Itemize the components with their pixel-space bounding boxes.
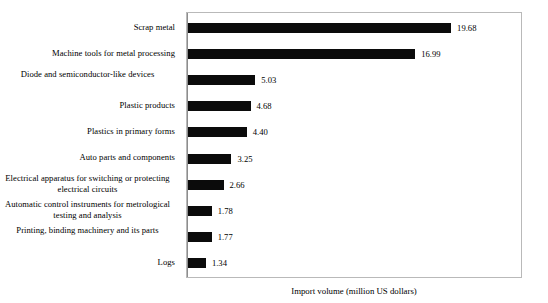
bar: [188, 49, 415, 59]
category-label: Machine tools for metal processing: [0, 48, 175, 58]
bar: [188, 101, 251, 111]
bar-row: 1.78: [188, 206, 233, 216]
bar: [188, 232, 212, 242]
category-axis-labels: Scrap metalMachine tools for metal proce…: [0, 12, 181, 278]
bar: [188, 75, 255, 85]
bar-value-label: 5.03: [261, 75, 276, 85]
bar-value-label: 16.99: [421, 49, 440, 59]
bar: [188, 206, 212, 216]
category-label: Plastic products: [0, 100, 175, 110]
bar-value-label: 3.25: [237, 154, 252, 164]
category-label: Printing, binding machinery and its part…: [0, 225, 175, 235]
bar-value-label: 4.68: [257, 101, 272, 111]
bar-value-label: 2.66: [230, 180, 245, 190]
bar: [188, 23, 451, 33]
bar-chart-figure: Scrap metalMachine tools for metal proce…: [0, 0, 548, 303]
plot-area: 19.6816.995.034.684.403.252.661.781.771.…: [186, 12, 522, 278]
bar-row: 16.99: [188, 49, 441, 59]
bar-row: 3.25: [188, 154, 252, 164]
bar: [188, 127, 247, 137]
bar-row: 1.34: [188, 258, 227, 268]
x-axis-title: Import volume (million US dollars): [186, 286, 522, 296]
category-label: Logs: [0, 257, 175, 267]
category-label: Auto parts and components: [0, 152, 175, 162]
bar-row: 4.40: [188, 127, 268, 137]
bar: [188, 180, 224, 190]
bar-value-label: 19.68: [457, 23, 476, 33]
bar-row: 5.03: [188, 75, 276, 85]
bar-value-label: 1.34: [212, 258, 227, 268]
category-label: Diode and semiconductor-like devices: [0, 69, 175, 79]
category-label: Plastics in primary forms: [0, 126, 175, 136]
category-label: Automatic control instruments for metrol…: [0, 199, 175, 220]
bar-row: 2.66: [188, 180, 245, 190]
bar-value-label: 1.77: [218, 232, 233, 242]
bar-value-label: 4.40: [253, 127, 268, 137]
bar: [188, 258, 206, 268]
bar: [188, 154, 231, 164]
bar-value-label: 1.78: [218, 206, 233, 216]
bar-row: 19.68: [188, 23, 476, 33]
bar-row: 1.77: [188, 232, 233, 242]
bar-row: 4.68: [188, 101, 272, 111]
category-label: Electrical apparatus for switching or pr…: [0, 173, 175, 194]
category-label: Scrap metal: [0, 22, 175, 32]
